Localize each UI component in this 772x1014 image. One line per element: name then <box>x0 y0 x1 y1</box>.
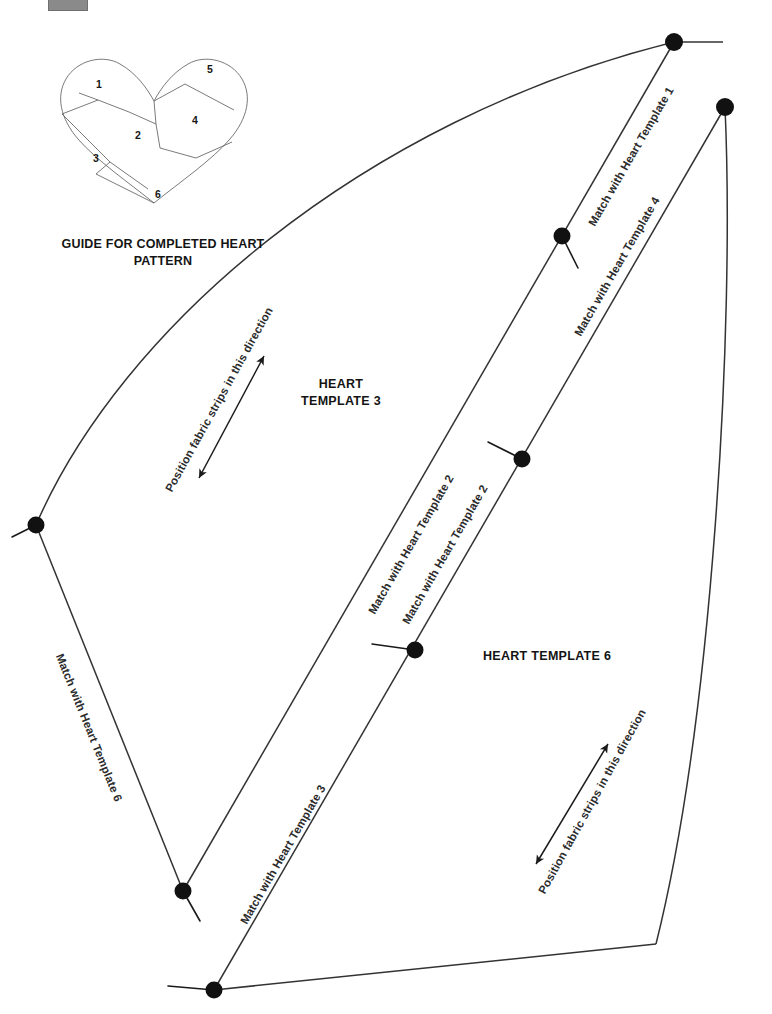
heart-seam-4 <box>62 114 148 189</box>
heart-seam-7 <box>96 162 154 203</box>
page-title-template-6: HEART TEMPLATE 6 <box>483 648 653 665</box>
marker-bottom <box>206 982 223 999</box>
template-3-right-edge <box>183 42 674 891</box>
template-6-right-edge <box>656 107 727 944</box>
guide-heart-diagram <box>61 59 248 203</box>
heart-seam-3 <box>62 100 98 114</box>
registration-ticks <box>12 236 578 990</box>
marker-left-west <box>28 517 45 534</box>
guide-piece-number-2: 2 <box>135 129 141 141</box>
marker-top-apex <box>665 33 683 51</box>
guide-heart-numbers: 1 2 3 4 5 6 <box>93 63 213 200</box>
page-title-template-3: HEART TEMPLATE 3 <box>281 376 401 410</box>
guide-piece-number-5: 5 <box>207 63 213 75</box>
template-3-top-arc <box>36 42 674 525</box>
marker-mid-left <box>407 642 424 659</box>
guide-caption: GUIDE FOR COMPLETED HEART PATTERN <box>58 236 268 270</box>
registration-markers <box>28 33 735 999</box>
guide-piece-number-4: 4 <box>192 114 198 126</box>
template-6-left-edge <box>214 107 725 990</box>
heart-seam-5 <box>160 142 232 158</box>
template-6-bottom-edge <box>214 944 656 990</box>
guide-piece-number-3: 3 <box>93 152 99 164</box>
heart-seam-6 <box>154 84 234 110</box>
marker-right-upper <box>716 98 734 116</box>
marker-upper-mid <box>554 228 571 245</box>
heart-seam-2 <box>79 93 156 124</box>
guide-piece-number-1: 1 <box>96 78 102 90</box>
template-3-left-edge <box>36 525 183 891</box>
pattern-sheet-page: 1 2 3 4 5 6 <box>0 0 772 1014</box>
marker-lower-left <box>175 883 192 900</box>
guide-piece-number-6: 6 <box>155 188 161 200</box>
template-3-outline <box>36 42 674 891</box>
heart-outline <box>61 59 248 203</box>
marker-mid-right <box>514 451 531 468</box>
pattern-drawing: 1 2 3 4 5 6 <box>0 0 772 1014</box>
heart-seam-1 <box>154 101 160 148</box>
